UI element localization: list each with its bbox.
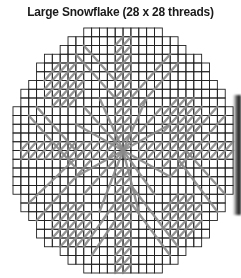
snowflake-grid <box>0 0 241 278</box>
page-shadow <box>233 95 241 215</box>
